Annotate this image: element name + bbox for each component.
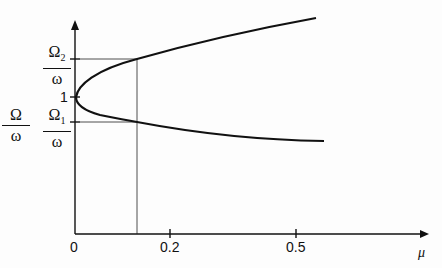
y-axis-arrow-icon — [71, 20, 79, 30]
omega2-label: Ω2 ω — [43, 44, 71, 87]
x-tick-0.5: 0.5 — [286, 240, 305, 254]
x-axis-arrow-icon — [420, 230, 429, 238]
y-axis-label: Ω ω — [2, 107, 30, 144]
upper-branch-curve — [76, 18, 316, 97]
x-tick-0: 0 — [70, 240, 78, 254]
omega1-label: Ω1 ω — [43, 107, 71, 150]
y-tick-1: 1 — [60, 90, 68, 104]
frequency-diagram: 0 0.2 0.5 μ 1 Ω2 ω Ω1 ω Ω ω — [0, 0, 442, 268]
lower-branch-curve — [76, 97, 324, 141]
x-tick-0.2: 0.2 — [160, 240, 179, 254]
x-axis-label: μ — [418, 246, 425, 260]
